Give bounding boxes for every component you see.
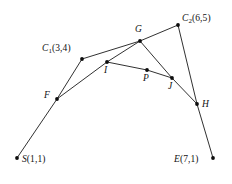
label-s: S(1,1)	[22, 155, 46, 165]
label-i: I	[104, 66, 107, 76]
segment-j-h	[172, 78, 197, 104]
point-e	[211, 156, 215, 160]
label-f: F	[44, 91, 50, 101]
segment-g-c2	[140, 25, 178, 41]
label-e: E(7,1)	[174, 155, 199, 165]
segment-s-f	[17, 99, 57, 158]
point-p	[145, 68, 149, 72]
label-c1: C1(3,4)	[42, 44, 71, 55]
label-c2: C2(6,5)	[182, 14, 211, 25]
segment-h-e	[197, 104, 213, 158]
segment-f-c1	[57, 59, 82, 99]
segment-i-g	[107, 41, 140, 62]
bezier-construction-diagram: S(1,1)C1(3,4)C2(6,5)E(7,1)FGHIJP	[0, 0, 232, 184]
label-p: P	[143, 74, 149, 84]
point-i	[105, 60, 109, 64]
point-g	[138, 39, 142, 43]
point-c2	[176, 23, 180, 27]
segment-c1-g	[82, 41, 140, 59]
segment-f-i	[57, 62, 107, 99]
label-j: J	[168, 82, 172, 92]
point-f	[55, 97, 59, 101]
point-c1	[80, 57, 84, 61]
segment-i-p	[107, 62, 147, 70]
point-s	[15, 156, 19, 160]
label-g: G	[135, 25, 142, 35]
point-j	[170, 76, 174, 80]
label-h: H	[202, 100, 209, 110]
segment-c2-h	[178, 25, 197, 104]
point-h	[195, 102, 199, 106]
